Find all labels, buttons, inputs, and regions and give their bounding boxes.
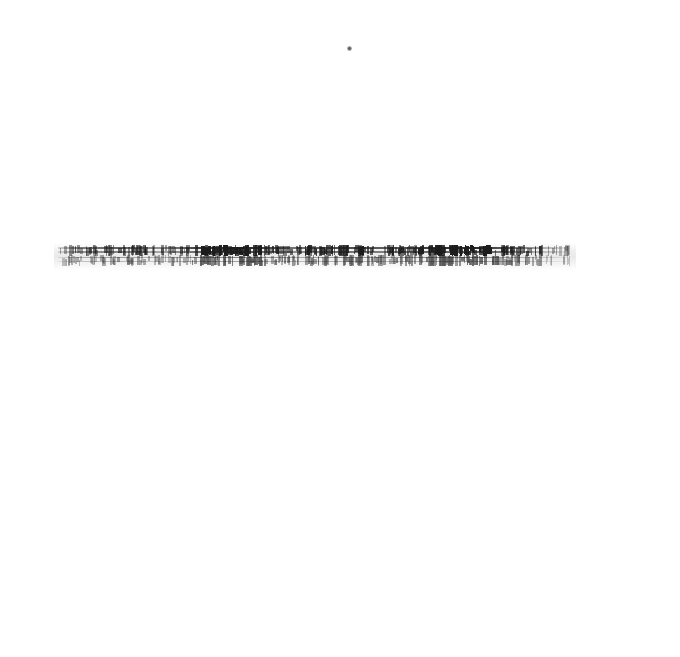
ink-stroke — [356, 258, 357, 263]
ink-stroke — [487, 246, 490, 254]
ink-stroke — [480, 257, 483, 264]
ink-stroke — [501, 247, 505, 252]
ink-stroke — [525, 255, 528, 264]
ink-stroke — [347, 245, 349, 253]
ink-stroke — [563, 257, 565, 264]
ink-stroke — [135, 248, 137, 255]
ink-stroke — [502, 255, 504, 265]
ink-stroke — [172, 257, 174, 266]
ink-stroke — [400, 256, 403, 266]
ink-stroke — [118, 248, 122, 253]
ink-stroke — [504, 259, 507, 265]
ink-stroke — [75, 246, 76, 253]
ink-stroke — [64, 246, 67, 254]
ink-stroke — [310, 261, 313, 266]
ink-stroke — [284, 257, 286, 263]
ink-stroke — [265, 246, 269, 255]
ink-stroke — [215, 255, 218, 265]
ink-stroke — [278, 256, 280, 262]
ink-stroke — [539, 255, 542, 265]
ink-stroke — [476, 255, 478, 264]
ink-stroke — [442, 256, 445, 266]
ink-stroke — [395, 247, 397, 253]
ink-stroke — [200, 260, 204, 266]
ink-stroke — [461, 246, 462, 255]
ink-stroke — [165, 245, 168, 251]
ink-stroke — [80, 248, 83, 254]
ink-stroke — [519, 256, 520, 264]
ink-stroke — [183, 258, 186, 263]
ink-stroke — [168, 256, 171, 263]
ink-stroke — [271, 256, 273, 264]
ink-stroke — [140, 260, 142, 265]
ink-stroke — [218, 255, 220, 265]
ink-stroke — [556, 245, 558, 255]
ink-stroke — [336, 256, 337, 263]
ink-stroke — [177, 257, 178, 264]
ink-stroke — [287, 246, 290, 252]
ink-stroke — [433, 258, 434, 263]
ink-stroke — [385, 255, 386, 265]
ink-stroke — [470, 245, 473, 251]
ink-stroke — [73, 256, 75, 263]
ink-stroke — [434, 248, 435, 255]
scan-speck-artifact — [347, 46, 352, 51]
ink-stroke — [343, 245, 344, 255]
ink-stroke — [161, 245, 164, 255]
ink-stroke — [192, 260, 193, 265]
ink-stroke — [295, 260, 296, 265]
ink-stroke — [79, 260, 80, 266]
ink-stroke — [390, 245, 393, 255]
ink-stroke — [527, 248, 531, 252]
ink-stroke — [484, 256, 487, 265]
ink-stroke — [436, 256, 437, 265]
ink-stroke — [551, 255, 552, 265]
ink-stroke — [492, 256, 495, 265]
ink-stroke — [137, 246, 138, 253]
ink-stroke — [272, 246, 274, 254]
ink-stroke — [276, 247, 279, 253]
ink-stroke — [411, 255, 413, 266]
ink-stroke — [309, 245, 310, 255]
ink-stroke — [228, 246, 232, 255]
ink-stroke — [532, 257, 535, 265]
ink-stroke — [90, 256, 92, 263]
ink-stroke — [209, 256, 211, 265]
ink-stroke — [539, 246, 541, 254]
ink-stroke — [554, 246, 555, 253]
ink-stroke — [169, 246, 171, 254]
ink-stroke — [208, 246, 209, 251]
ink-stroke — [320, 247, 324, 255]
ink-stroke — [547, 255, 548, 260]
ink-stroke — [228, 256, 231, 264]
ink-stroke — [360, 246, 364, 255]
ink-stroke — [94, 255, 96, 265]
ink-stroke — [80, 256, 81, 261]
ink-stroke — [253, 245, 258, 256]
ink-stroke — [104, 258, 106, 266]
ink-stroke — [528, 257, 530, 264]
ink-stroke — [565, 245, 567, 251]
ink-stroke — [102, 257, 104, 263]
ink-stroke — [459, 255, 461, 265]
ink-stroke — [130, 258, 133, 264]
ink-stroke — [569, 256, 570, 266]
ink-stroke — [568, 258, 569, 264]
ink-stroke — [421, 256, 422, 263]
ink-stroke — [334, 245, 335, 254]
ink-stroke — [247, 256, 251, 265]
ink-stroke — [354, 247, 355, 254]
ink-stroke — [165, 255, 166, 262]
ink-stroke — [143, 259, 146, 266]
ink-stroke — [258, 257, 262, 264]
ink-stroke — [514, 246, 515, 251]
ink-stroke — [510, 247, 513, 253]
ink-stroke — [396, 258, 398, 263]
ink-stroke — [190, 255, 191, 264]
ink-stroke — [367, 255, 369, 266]
ink-stroke — [376, 257, 379, 263]
ink-stroke — [343, 256, 345, 266]
ink-stroke — [414, 255, 415, 264]
ink-stroke — [264, 256, 266, 266]
ink-stroke — [187, 255, 188, 265]
